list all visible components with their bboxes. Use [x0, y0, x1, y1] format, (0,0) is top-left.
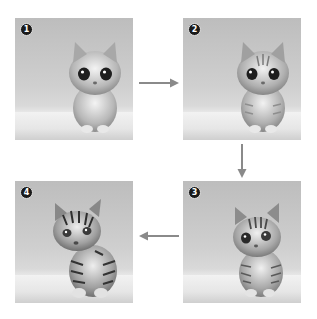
- arrow-right-icon: [139, 78, 179, 88]
- kitten-illustration: [15, 18, 133, 140]
- panel-2-kitten-faint-stripes: 2: [183, 18, 301, 140]
- kitten-illustration: [183, 181, 301, 303]
- arrow-left-icon: [139, 231, 179, 241]
- panel-4-tiger-cub: 4: [15, 181, 133, 303]
- step-badge-3: 3: [188, 186, 201, 199]
- panel-1-kitten: 1: [15, 18, 133, 140]
- panel-3-tabby-kitten: 3: [183, 181, 301, 303]
- step-badge-2: 2: [188, 23, 201, 36]
- step-badge-4: 4: [20, 186, 33, 199]
- tiger-cub-illustration: [15, 181, 133, 303]
- arrow-down-icon: [237, 144, 247, 178]
- kitten-illustration: [183, 18, 301, 140]
- step-badge-1: 1: [20, 23, 33, 36]
